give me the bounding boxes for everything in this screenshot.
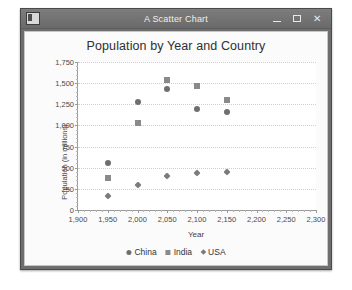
x-minor-tick bbox=[262, 210, 263, 212]
screenshot-root: A Scatter Chart ✕ Population by Year and… bbox=[0, 0, 352, 290]
x-minor-tick bbox=[221, 210, 222, 212]
close-button[interactable]: ✕ bbox=[310, 13, 323, 25]
x-minor-tick bbox=[102, 210, 103, 212]
y-minor-tick bbox=[76, 87, 78, 88]
maximize-button[interactable] bbox=[290, 13, 303, 25]
legend-marker-square-icon bbox=[166, 250, 171, 255]
y-minor-tick bbox=[76, 155, 78, 156]
legend-label: India bbox=[174, 247, 192, 257]
y-minor-tick bbox=[76, 130, 78, 131]
data-point-china bbox=[194, 106, 200, 112]
legend-item-india[interactable]: India bbox=[166, 247, 192, 257]
data-point-india bbox=[224, 97, 230, 103]
window-app-icon bbox=[26, 12, 40, 25]
data-point-india bbox=[194, 83, 200, 89]
y-minor-tick bbox=[76, 202, 78, 203]
x-tick-mark bbox=[227, 210, 228, 213]
x-tick-mark bbox=[167, 210, 168, 213]
y-minor-tick bbox=[76, 163, 78, 164]
maximize-icon bbox=[293, 15, 301, 22]
x-tick-label: 2,000 bbox=[128, 215, 147, 224]
x-tick-label: 2,250 bbox=[277, 215, 296, 224]
y-tick-label: 250 bbox=[61, 184, 74, 193]
y-minor-tick bbox=[76, 121, 78, 122]
x-axis-label: Year bbox=[77, 230, 315, 239]
x-minor-tick bbox=[173, 210, 174, 212]
legend-item-china[interactable]: China bbox=[126, 247, 156, 257]
y-tick-mark bbox=[75, 83, 78, 84]
gridline-horizontal bbox=[78, 125, 316, 126]
x-minor-tick bbox=[298, 210, 299, 212]
x-minor-tick bbox=[96, 210, 97, 212]
x-minor-tick bbox=[143, 210, 144, 212]
x-minor-tick bbox=[304, 210, 305, 212]
chart-title: Population by Year and Country bbox=[25, 39, 327, 53]
y-tick-label: 500 bbox=[61, 163, 74, 172]
y-minor-tick bbox=[76, 96, 78, 97]
data-point-india bbox=[105, 175, 111, 181]
y-minor-tick bbox=[76, 176, 78, 177]
legend-item-usa[interactable]: USA bbox=[201, 247, 225, 257]
y-minor-tick bbox=[76, 142, 78, 143]
x-minor-tick bbox=[149, 210, 150, 212]
y-tick-label: 1,250 bbox=[55, 100, 74, 109]
x-minor-tick bbox=[233, 210, 234, 212]
gridline-horizontal bbox=[78, 147, 316, 148]
x-minor-tick bbox=[191, 210, 192, 212]
data-point-usa bbox=[223, 168, 230, 175]
legend-label: China bbox=[134, 247, 156, 257]
y-minor-tick bbox=[76, 159, 78, 160]
gridline-horizontal bbox=[78, 189, 316, 190]
minimize-button[interactable] bbox=[270, 13, 283, 25]
data-point-usa bbox=[164, 173, 171, 180]
y-tick-label: 1,000 bbox=[55, 121, 74, 130]
y-tick-mark bbox=[75, 168, 78, 169]
gridline-horizontal bbox=[78, 62, 316, 63]
y-tick-mark bbox=[75, 125, 78, 126]
x-minor-tick bbox=[179, 210, 180, 212]
y-minor-tick bbox=[76, 197, 78, 198]
y-tick-label: 0 bbox=[70, 206, 74, 215]
data-point-china bbox=[224, 109, 230, 115]
minimize-icon bbox=[273, 21, 281, 22]
application-window: A Scatter Chart ✕ Population by Year and… bbox=[20, 8, 332, 270]
y-minor-tick bbox=[76, 113, 78, 114]
legend-marker-diamond-icon bbox=[200, 249, 206, 255]
x-minor-tick bbox=[310, 210, 311, 212]
y-tick-label: 1,500 bbox=[55, 79, 74, 88]
x-tick-label: 2,200 bbox=[247, 215, 266, 224]
x-minor-tick bbox=[245, 210, 246, 212]
y-tick-mark bbox=[75, 147, 78, 148]
data-point-india bbox=[135, 120, 141, 126]
legend-marker-circle-icon bbox=[126, 250, 131, 255]
y-minor-tick bbox=[76, 185, 78, 186]
x-tick-label: 2,100 bbox=[188, 215, 207, 224]
x-minor-tick bbox=[203, 210, 204, 212]
data-point-usa bbox=[104, 193, 111, 200]
x-minor-tick bbox=[120, 210, 121, 212]
x-tick-mark bbox=[257, 210, 258, 213]
y-minor-tick bbox=[76, 79, 78, 80]
data-point-china bbox=[105, 160, 111, 166]
y-minor-tick bbox=[76, 100, 78, 101]
y-minor-tick bbox=[76, 180, 78, 181]
legend-label: USA bbox=[208, 247, 225, 257]
x-tick-label: 2,300 bbox=[307, 215, 326, 224]
y-tick-label: 1,750 bbox=[55, 58, 74, 67]
x-minor-tick bbox=[126, 210, 127, 212]
x-tick-mark bbox=[316, 210, 317, 213]
x-tick-mark bbox=[197, 210, 198, 213]
x-tick-mark bbox=[108, 210, 109, 213]
y-minor-tick bbox=[76, 75, 78, 76]
x-minor-tick bbox=[185, 210, 186, 212]
y-tick-mark bbox=[75, 189, 78, 190]
plot-wrapper: Population (in millions) 02505007501,000… bbox=[25, 58, 327, 265]
window-titlebar[interactable]: A Scatter Chart ✕ bbox=[21, 9, 331, 29]
x-minor-tick bbox=[215, 210, 216, 212]
data-point-india bbox=[164, 77, 170, 83]
y-tick-mark bbox=[75, 104, 78, 105]
x-minor-tick bbox=[132, 210, 133, 212]
x-tick-mark bbox=[138, 210, 139, 213]
y-minor-tick bbox=[76, 206, 78, 207]
x-minor-tick bbox=[114, 210, 115, 212]
